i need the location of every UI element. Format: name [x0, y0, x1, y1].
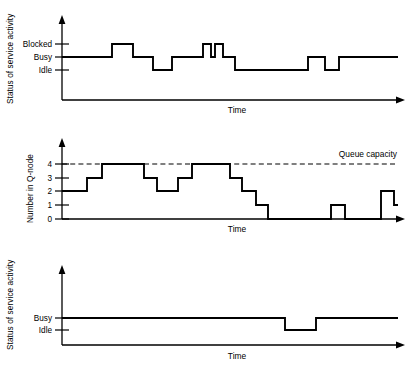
chart-2-panel: Number in Q-node 4 3 2 1 0 Queue capacit…	[0, 123, 412, 240]
chart-1-y-axis-arrow	[59, 15, 66, 24]
chart-3-ticklabel-busy: Busy	[34, 314, 53, 323]
chart-1-panel: Status of service activity Blocked Busy …	[0, 0, 412, 123]
chart-3-xlabel: Time	[228, 351, 247, 361]
chart-1-ticklabel-idle: Idle	[39, 66, 53, 75]
chart-3-step-line	[62, 318, 398, 330]
chart-1-ticklabel-blocked: Blocked	[23, 40, 53, 49]
chart-3-x-axis-arrow	[396, 342, 405, 349]
chart-1-step-line	[62, 44, 398, 70]
chart-1-x-axis-arrow	[396, 97, 405, 104]
chart-2-ylabel: Number in Q-node	[26, 154, 35, 223]
chart-3-panel: Status of service activity Busy Idle Tim…	[0, 240, 412, 369]
chart-2-ticklabel-2: 2	[47, 187, 52, 196]
chart-3-y-axis-arrow	[59, 265, 66, 274]
chart-1-ylabel: Status of service activity	[6, 13, 15, 104]
chart-2-xlabel: Time	[228, 224, 247, 234]
chart-2-x-axis-arrow	[396, 216, 405, 223]
chart-2-y-axis-arrow	[59, 138, 66, 147]
chart-2-queue-capacity-label: Queue capacity	[339, 149, 398, 159]
chart-2-ticklabel-1: 1	[47, 201, 52, 210]
chart-2-ticklabel-0: 0	[47, 215, 52, 224]
chart-1-xlabel: Time	[228, 105, 247, 115]
chart-1-ticklabel-busy: Busy	[34, 53, 53, 62]
chart-3-ylabel: Status of service activity	[6, 259, 15, 350]
chart-3-ticklabel-idle: Idle	[39, 326, 53, 335]
figure-root: Status of service activity Blocked Busy …	[0, 0, 412, 369]
chart-2-ticklabel-4: 4	[47, 160, 52, 169]
chart-2-ticklabel-3: 3	[47, 174, 52, 183]
chart-2-step-line	[62, 164, 398, 219]
